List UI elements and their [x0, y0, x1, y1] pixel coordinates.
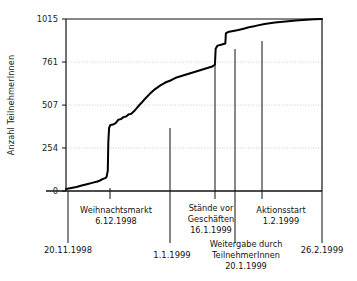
- annotation-staende-vor-geschaeften: Stände vor Geschäften 16.1.1999: [188, 203, 235, 235]
- annotation-aktionsstart-date: 1.2.1999: [263, 216, 299, 226]
- annotation-weihnachtsmarkt-date: 6.12.1998: [95, 216, 137, 226]
- annotation-aktionsstart: Aktionsstart 1.2.1999: [256, 205, 306, 226]
- participation-growth-chart: 02545077611015 Anzahl TeilnehmerInnen We…: [0, 0, 357, 281]
- annotation-staende-date: 16.1.1999: [190, 225, 232, 235]
- y-tick-label-1015: 1015: [37, 14, 58, 24]
- x-axis-start-date: 20.11.1998: [44, 245, 92, 255]
- annotation-staende-line2: Geschäften: [188, 214, 235, 224]
- y-tick-label-761: 761: [42, 57, 58, 67]
- annotation-weitergabe-date: 20.1.1999: [225, 261, 267, 271]
- annotation-weitergabe-line2: TeilnehmerInnen: [211, 250, 280, 260]
- annotation-weitergabe-line1: Weitergabe durch: [210, 239, 283, 249]
- y-axis-label: Anzahl TeilnehmerInnen: [6, 55, 16, 155]
- annotation-staende-line1: Stände vor: [189, 203, 234, 213]
- y-tick-label-507: 507: [42, 100, 58, 110]
- x-axis-end-date: 26.2.1999: [301, 245, 344, 255]
- y-tick-label-254: 254: [42, 143, 58, 153]
- annotation-weihnachtsmarkt-title: Weihnachtsmarkt: [80, 205, 153, 215]
- chart-figure: 02545077611015 Anzahl TeilnehmerInnen We…: [0, 0, 357, 281]
- chart-background: [0, 0, 357, 281]
- annotation-aktionsstart-title: Aktionsstart: [256, 205, 306, 215]
- y-tick-label-0: 0: [53, 186, 58, 196]
- x-axis-mid-date: 1.1.1999: [153, 250, 190, 260]
